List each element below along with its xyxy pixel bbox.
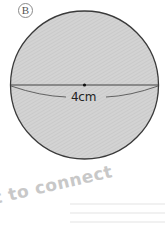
center-point [83,83,86,86]
figure-label: B [18,3,33,18]
faint-bleed-text [70,203,165,230]
diameter-measurement: 4cm [71,90,96,104]
